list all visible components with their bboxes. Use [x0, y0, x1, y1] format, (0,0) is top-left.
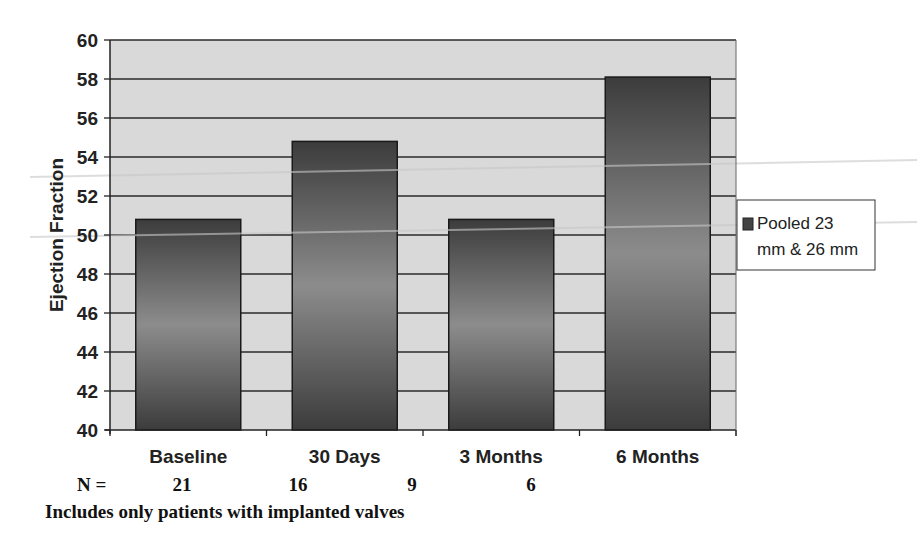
legend: Pooled 23 mm & 26 mm — [737, 200, 875, 270]
x-category-labels: Baseline30 Days3 Months6 Months — [110, 430, 736, 467]
y-tick-label: 40 — [77, 420, 98, 441]
y-tick-label: 60 — [77, 30, 98, 51]
y-tick-label: 50 — [77, 225, 98, 246]
bar-baseline — [136, 219, 241, 430]
y-tick-label: 48 — [77, 264, 98, 285]
n-value: 21 — [173, 474, 192, 495]
legend-swatch — [743, 218, 753, 230]
n-value: 9 — [407, 474, 417, 495]
y-axis-label: Ejection Fraction — [46, 158, 67, 312]
x-category-label: 6 Months — [616, 446, 699, 467]
y-tick-label: 44 — [77, 342, 99, 363]
legend-label-line1: Pooled 23 — [757, 214, 834, 233]
bar-chart: 4042444648505254565860 Baseline30 Days3 … — [0, 0, 917, 551]
legend-label-line2: mm & 26 mm — [757, 240, 858, 259]
n-value: 16 — [289, 474, 308, 495]
y-tick-label: 56 — [77, 108, 98, 129]
y-tick-labels: 4042444648505254565860 — [77, 30, 110, 441]
x-category-label: 30 Days — [309, 446, 381, 467]
bar-3-months — [449, 219, 554, 430]
y-tick-label: 42 — [77, 381, 98, 402]
n-value: 6 — [526, 474, 536, 495]
y-tick-label: 58 — [77, 69, 98, 90]
bar-30-days — [292, 141, 397, 430]
bar-6-months — [605, 77, 710, 430]
x-category-label: Baseline — [149, 446, 227, 467]
y-tick-label: 46 — [77, 303, 98, 324]
n-values: 211696 — [173, 474, 536, 495]
n-label: N = — [77, 474, 106, 495]
footnote: Includes only patients with implanted va… — [45, 501, 404, 522]
y-tick-label: 52 — [77, 186, 98, 207]
y-tick-label: 54 — [77, 147, 99, 168]
x-category-label: 3 Months — [460, 446, 543, 467]
